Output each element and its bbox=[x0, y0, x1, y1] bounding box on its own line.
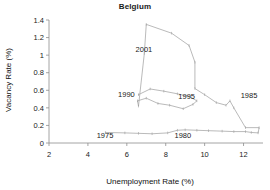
chart-container: Belgium 00.20.40.60.811.21.4 24681012 20… bbox=[0, 0, 270, 190]
series-line bbox=[105, 24, 259, 133]
axis-lines bbox=[49, 20, 263, 143]
y-tick-label: 1 bbox=[40, 51, 44, 60]
scatter-line-plot: 00.20.40.60.811.21.4 24681012 2001199019… bbox=[0, 0, 270, 190]
x-tick-label: 8 bbox=[164, 150, 168, 159]
year-annotation-group: 200119901995198519751980 bbox=[97, 45, 258, 141]
y-axis-title: Vacancy Rate (%) bbox=[4, 48, 13, 112]
y-tick-label: 1.4 bbox=[34, 16, 44, 25]
y-tick-label: 0.8 bbox=[34, 68, 44, 77]
x-tick-label: 12 bbox=[239, 150, 247, 159]
y-tick-label: 1.2 bbox=[34, 33, 44, 42]
data-series-group bbox=[105, 23, 259, 135]
x-axis-title: Unemployment Rate (%) bbox=[106, 177, 194, 186]
x-axis-tick-group: 24681012 bbox=[47, 143, 248, 159]
y-axis-tick-group: 00.20.40.60.811.21.4 bbox=[34, 16, 49, 148]
year-annotation: 1990 bbox=[118, 90, 135, 99]
year-annotation: 1985 bbox=[241, 91, 258, 100]
y-tick-label: 0.4 bbox=[34, 104, 44, 113]
x-tick-label: 2 bbox=[47, 150, 51, 159]
y-tick-label: 0.6 bbox=[34, 86, 44, 95]
x-tick-label: 4 bbox=[86, 150, 90, 159]
x-tick-label: 6 bbox=[125, 150, 129, 159]
year-annotation: 1995 bbox=[178, 92, 195, 101]
y-tick-label: 0 bbox=[40, 139, 44, 148]
year-annotation: 1980 bbox=[174, 131, 191, 140]
year-annotation: 1975 bbox=[97, 131, 114, 140]
y-tick-label: 0.2 bbox=[34, 121, 44, 130]
year-annotation: 2001 bbox=[136, 45, 153, 54]
x-tick-label: 10 bbox=[200, 150, 208, 159]
